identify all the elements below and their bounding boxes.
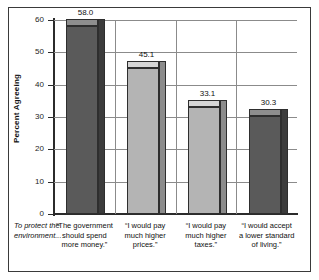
y-tick-label-10: 10 bbox=[18, 178, 44, 186]
x-intro-line: environment... bbox=[14, 231, 72, 241]
bar-side-face-0 bbox=[98, 19, 105, 214]
bar-top-face-1 bbox=[127, 61, 159, 68]
bar-top-face-0 bbox=[66, 19, 98, 26]
bar-top-face-3 bbox=[249, 109, 281, 116]
bar-side-face-2 bbox=[220, 100, 227, 214]
chart-figure: Percent Agreeing 0102030405060 58.045.13… bbox=[0, 0, 319, 280]
category-divider-2 bbox=[176, 20, 177, 214]
x-label-line: of living.” bbox=[228, 240, 305, 250]
bar-front-face-0 bbox=[66, 26, 98, 214]
bar-0 bbox=[66, 19, 105, 214]
y-tick-label-0: 0 bbox=[18, 210, 44, 218]
y-tick-label-20: 20 bbox=[18, 145, 44, 153]
y-tick-label-30: 30 bbox=[18, 113, 44, 121]
bar-front-face-2 bbox=[188, 107, 220, 214]
bar-value-label-3: 30.3 bbox=[249, 98, 289, 107]
bar-top-face-2 bbox=[188, 100, 220, 107]
bar-2 bbox=[188, 100, 227, 214]
x-axis-intro-label: To protect theenvironment... bbox=[14, 221, 72, 240]
category-divider-1 bbox=[115, 20, 116, 214]
y-tick-label-60: 60 bbox=[18, 16, 44, 24]
bar-front-face-3 bbox=[249, 116, 281, 214]
bar-value-label-1: 45.1 bbox=[127, 50, 167, 59]
bar-value-label-2: 33.1 bbox=[188, 89, 228, 98]
x-intro-line: To protect the bbox=[14, 221, 72, 231]
bar-1 bbox=[127, 61, 166, 214]
x-label-line: “I would accept bbox=[228, 221, 305, 231]
bar-side-face-3 bbox=[281, 109, 288, 214]
x-label-line: a lower standard bbox=[228, 231, 305, 241]
category-divider-3 bbox=[236, 20, 237, 214]
x-category-label-3: “I would accepta lower standardof living… bbox=[228, 221, 305, 250]
bar-side-face-1 bbox=[159, 61, 166, 214]
plot-area bbox=[54, 20, 297, 214]
bar-front-face-1 bbox=[127, 68, 159, 214]
bar-value-label-0: 58.0 bbox=[66, 8, 106, 17]
y-tick-label-40: 40 bbox=[18, 81, 44, 89]
y-tick-mark-0 bbox=[48, 214, 54, 215]
bar-3 bbox=[249, 109, 288, 214]
y-tick-label-50: 50 bbox=[18, 48, 44, 56]
